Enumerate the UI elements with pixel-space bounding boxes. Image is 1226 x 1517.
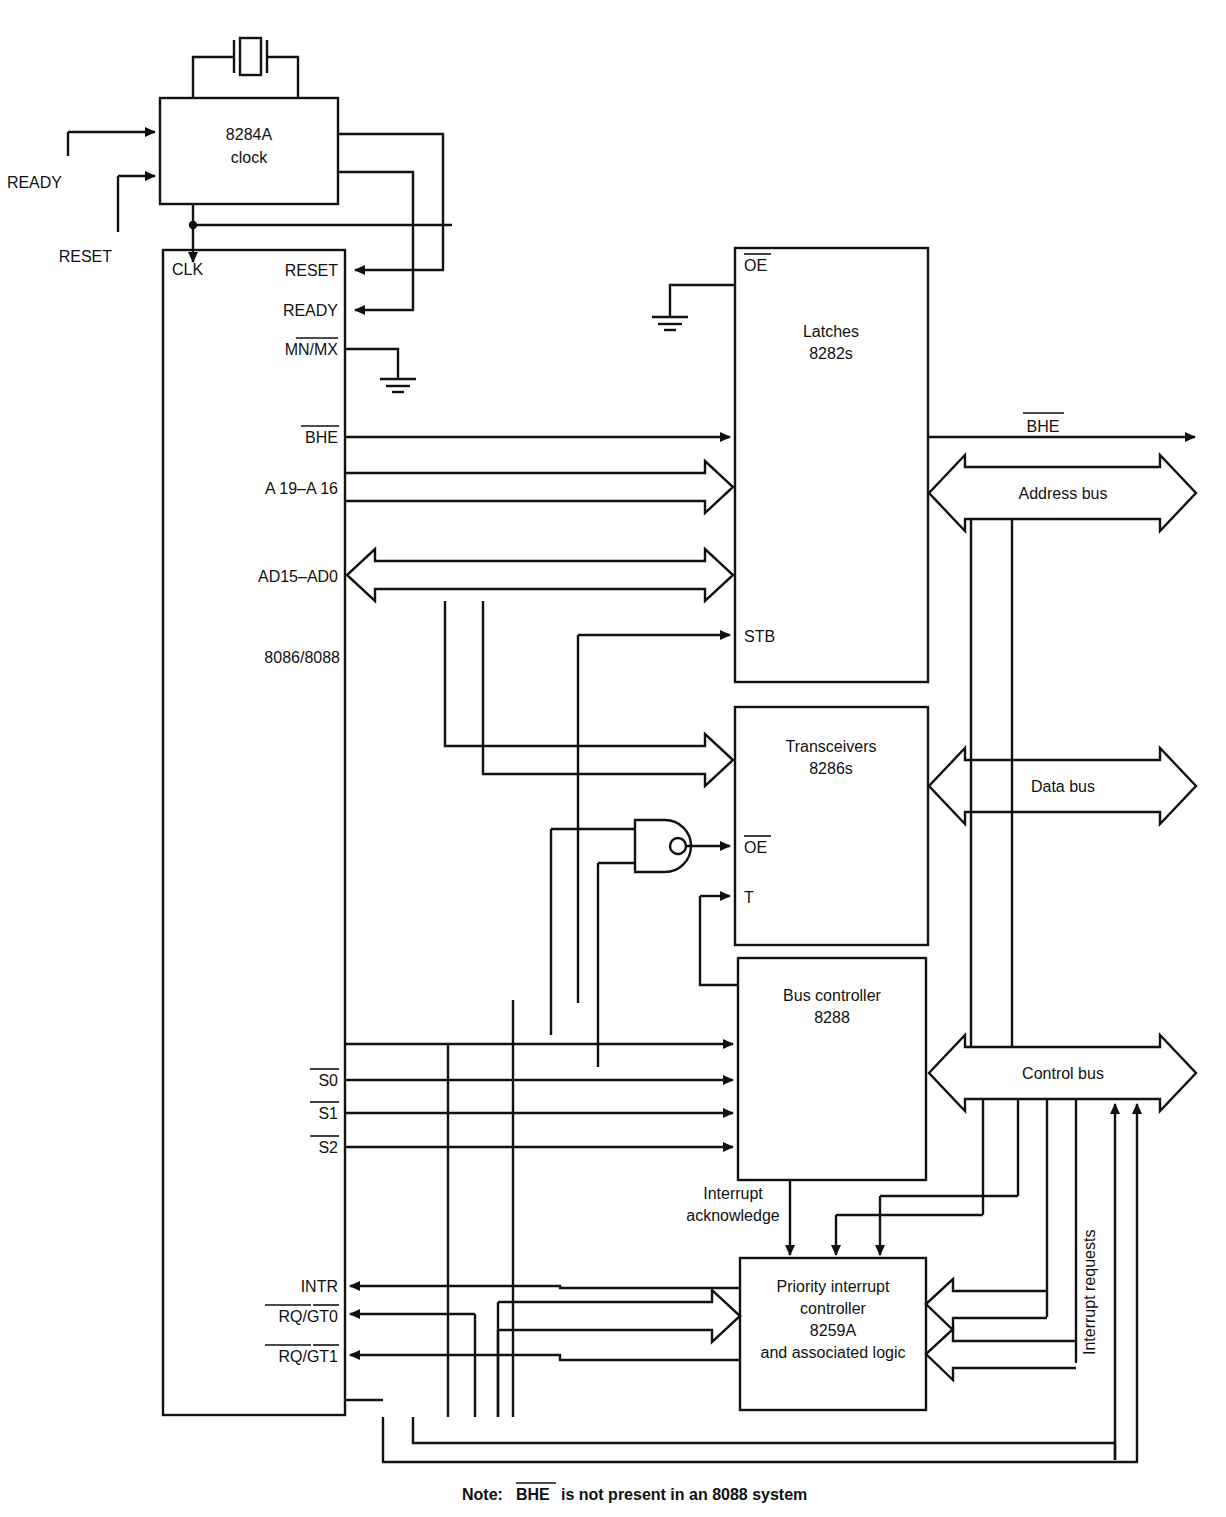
xcvr-pin-oe: OE	[744, 839, 767, 856]
clock-label-line2: clock	[231, 149, 268, 166]
bus-controller-label-line2: 8288	[814, 1009, 850, 1026]
pic-label-line4: and associated logic	[761, 1344, 906, 1361]
transceivers-label-line1: Transceivers	[786, 738, 877, 755]
diagram-canvas: 8284A clock READY RESET CLK 8086/8088 RE…	[0, 0, 1226, 1517]
pic-label-line1: Priority interrupt	[777, 1278, 890, 1295]
cpu-pin-s1: S1	[318, 1105, 338, 1122]
cpu-pin-s2: S2	[318, 1139, 338, 1156]
ad15-ad0-bus-to-latches	[347, 549, 733, 601]
bottom-feedback-2	[413, 1417, 1115, 1460]
interrupt-requests-label: Interrupt requests	[1081, 1230, 1098, 1355]
xcvr-pin-t: T	[744, 889, 754, 906]
cpu-pin-clk: CLK	[172, 261, 203, 278]
cpu-pin-ready: READY	[283, 302, 338, 319]
note-signal: BHE	[516, 1486, 550, 1503]
cpu-pin-mnmx: MN/MX	[285, 341, 339, 358]
pic-right-bus-2	[926, 1329, 1076, 1380]
latches-block	[735, 248, 928, 682]
control-bus-label: Control bus	[1022, 1065, 1104, 1082]
cpu-pin-intr: INTR	[301, 1278, 338, 1295]
address-bus-label: Address bus	[1019, 485, 1108, 502]
cpu-pin-a19-a16: A 19–A 16	[265, 480, 338, 497]
cpu-pin-rqgt1: RQ/GT1	[278, 1348, 338, 1365]
note-rest: is not present in an 8088 system	[561, 1486, 807, 1503]
bhe-bus-label: BHE	[1027, 418, 1060, 435]
reset-input-label: RESET	[59, 248, 113, 265]
block-diagram-svg: 8284A clock READY RESET CLK 8086/8088 RE…	[0, 0, 1226, 1517]
note-prefix: Note:	[462, 1486, 503, 1503]
a19-a16-bus	[345, 461, 733, 513]
clk-reset-out	[338, 134, 443, 270]
ad-bus-to-transceivers	[445, 601, 733, 786]
bus-controller-label-line1: Bus controller	[783, 987, 881, 1004]
ready-input-label: READY	[7, 174, 62, 191]
pic-label-line3: 8259A	[810, 1322, 857, 1339]
cpu-pin-s0: S0	[318, 1072, 338, 1089]
intr-feedback	[350, 1286, 740, 1288]
cpu-pin-rqgt0: RQ/GT0	[278, 1308, 338, 1325]
interrupt-ack-label-line2: acknowledge	[686, 1207, 780, 1224]
latch-pin-oe: OE	[744, 257, 767, 274]
cpu-pin-bhe: BHE	[305, 429, 338, 446]
cpu-block	[163, 250, 345, 1415]
transceivers-label-line2: 8286s	[809, 760, 853, 777]
clock-label-line1: 8284A	[226, 126, 273, 143]
clk-junction-dot	[189, 221, 197, 229]
interrupt-ack-label-line1: Interrupt	[703, 1185, 763, 1202]
data-bus-label: Data bus	[1031, 778, 1095, 795]
bottom-feedback-1	[383, 1417, 1137, 1462]
cpu-pin-ad15-ad0: AD15–AD0	[258, 568, 338, 585]
latches-label-line2: 8282s	[809, 345, 853, 362]
latches-label-line1: Latches	[803, 323, 859, 340]
rq-gt0-bus	[498, 1290, 740, 1342]
pic-label-line2: controller	[800, 1300, 866, 1317]
rq-gt1-feedback	[350, 1355, 740, 1360]
clk-ready-out	[338, 172, 413, 310]
pic-right-bus-1	[926, 1279, 1047, 1330]
ground-symbol-latch-oe	[652, 317, 688, 330]
cpu-pin-reset: RESET	[285, 262, 339, 279]
crystal-oscillator-icon	[193, 38, 298, 98]
latch-pin-stb: STB	[744, 628, 775, 645]
cpu-block-label: 8086/8088	[264, 649, 340, 666]
ground-symbol-mnmx	[380, 379, 416, 392]
